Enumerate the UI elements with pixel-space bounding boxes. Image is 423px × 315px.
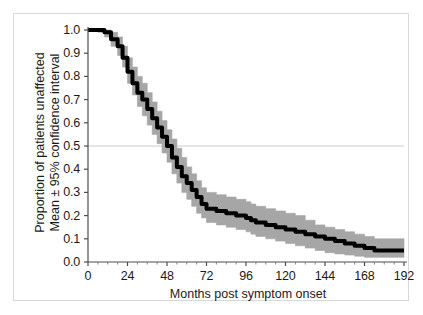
figure-container: 0.00.10.20.30.40.50.60.70.80.91.0 024487… (0, 0, 423, 315)
x-tick-label: 48 (147, 270, 187, 283)
x-tick-label: 72 (187, 270, 227, 283)
y-axis-label-line1: Proportion of patients unaffected (33, 18, 48, 268)
x-tick-label: 24 (108, 270, 148, 283)
x-tick-label: 168 (345, 270, 385, 283)
x-tick-label: 144 (305, 270, 345, 283)
y-axis-label-line2: Mean ± 95% confidence interval (47, 18, 62, 268)
x-tick-label: 120 (266, 270, 306, 283)
confidence-interval-band (88, 30, 404, 257)
x-tick-label: 192 (384, 270, 423, 283)
x-tick-label: 0 (68, 270, 108, 283)
x-tick-label: 96 (226, 270, 266, 283)
y-axis-label: Proportion of patients unaffected Mean ±… (33, 18, 62, 268)
x-axis-label: Months post symptom onset (88, 287, 408, 301)
mean-survival-line (88, 30, 404, 250)
